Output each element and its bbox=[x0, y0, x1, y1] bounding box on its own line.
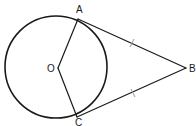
label-b: B bbox=[189, 63, 196, 74]
tangent-circle-diagram: A B C O bbox=[0, 0, 196, 126]
label-c: C bbox=[75, 117, 82, 126]
tangent-cb bbox=[77, 68, 186, 117]
radius-oa bbox=[58, 19, 78, 68]
radius-oc bbox=[58, 68, 77, 117]
label-a: A bbox=[76, 4, 83, 15]
label-o: O bbox=[47, 63, 55, 74]
circle-o bbox=[5, 16, 107, 118]
